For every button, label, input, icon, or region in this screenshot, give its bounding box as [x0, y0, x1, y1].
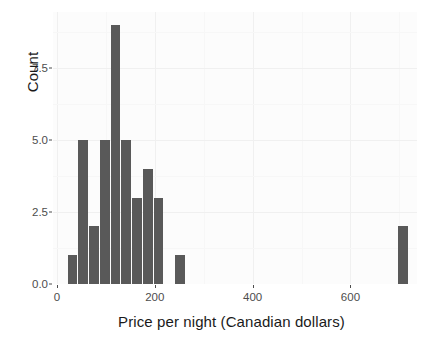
x-tick-label: 200: [125, 291, 185, 303]
y-axis-title: Count: [22, 0, 44, 222]
x-axis-title: Price per night (Canadian dollars): [44, 313, 419, 330]
x-tick-mark: [155, 285, 156, 288]
x-tick-mark: [57, 285, 58, 288]
x-axis-ticks: 0200400600: [0, 0, 429, 346]
x-tick-mark: [253, 285, 254, 288]
x-tick-label: 0: [27, 291, 87, 303]
x-tick-label: 600: [320, 291, 380, 303]
histogram-chart: 0.02.55.07.5 0200400600 Count Price per …: [0, 0, 429, 346]
x-tick-mark: [350, 285, 351, 288]
x-tick-label: 400: [223, 291, 283, 303]
